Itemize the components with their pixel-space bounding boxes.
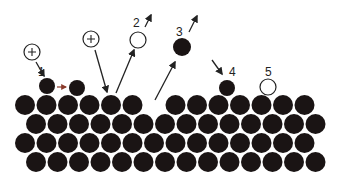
lattice-atom xyxy=(134,114,154,134)
sputtered-atom-3 xyxy=(173,38,191,56)
adatom-1-destination xyxy=(69,80,85,96)
lattice-atom xyxy=(15,95,35,115)
lattice-atom xyxy=(58,95,78,115)
lattice-atom xyxy=(230,133,250,153)
lattice-atom xyxy=(91,114,111,134)
lattice-atom xyxy=(177,114,197,134)
lattice-atom xyxy=(295,133,315,153)
lattice-atom xyxy=(263,114,283,134)
label-2: 2 xyxy=(133,16,140,30)
lattice-atom xyxy=(284,152,304,172)
lattice-atom xyxy=(26,152,46,172)
label-1: 1 xyxy=(38,65,45,79)
lattice-atom xyxy=(80,133,100,153)
lattice-atom xyxy=(306,152,326,172)
lattice-atom xyxy=(220,152,240,172)
lattice-atom xyxy=(91,152,111,172)
lattice-atom xyxy=(155,114,175,134)
lattice-atom xyxy=(177,152,197,172)
label-3: 3 xyxy=(176,25,183,39)
label-5: 5 xyxy=(265,65,272,79)
surface-ion-5 xyxy=(260,79,276,95)
lattice-atom xyxy=(26,114,46,134)
sputtered-ion-2 xyxy=(130,32,146,48)
lattice-atom xyxy=(134,152,154,172)
lattice-atom xyxy=(69,114,89,134)
adatom-1-origin xyxy=(39,78,55,94)
lattice-atom xyxy=(112,152,132,172)
trajectory-arrows xyxy=(36,15,222,100)
lattice-atom xyxy=(144,133,164,153)
lattice-atom xyxy=(252,95,272,115)
label-4: 4 xyxy=(229,65,236,79)
lattice-atom xyxy=(306,114,326,134)
lattice-atom xyxy=(166,95,186,115)
adatom-4 xyxy=(219,80,235,96)
lattice-atom xyxy=(295,95,315,115)
lattice-atom xyxy=(252,133,272,153)
lattice-atom xyxy=(80,95,100,115)
lattice-atom xyxy=(241,114,261,134)
lattice-atom xyxy=(166,133,186,153)
lattice-atom xyxy=(123,95,143,115)
lattice-atom xyxy=(48,152,68,172)
lattice-atom xyxy=(123,133,143,153)
lattice-atom xyxy=(284,114,304,134)
lattice-atom xyxy=(220,114,240,134)
incident-ion-2 xyxy=(83,31,99,47)
lattice-atom xyxy=(263,152,283,172)
lattice-atom xyxy=(273,95,293,115)
lattice-atom xyxy=(230,95,250,115)
lattice-atom xyxy=(209,133,229,153)
lattice-atom xyxy=(101,95,121,115)
lattice-atom xyxy=(209,95,229,115)
lattice-atom xyxy=(112,114,132,134)
lattice-atom xyxy=(48,114,68,134)
lattice-atom xyxy=(241,152,261,172)
sputter-2-exit-arrow xyxy=(145,15,151,27)
sputter-3-exit-arrow xyxy=(189,16,197,32)
lattice-atom xyxy=(69,152,89,172)
lattice-atom xyxy=(101,133,121,153)
lattice-atom xyxy=(187,133,207,153)
lattice-atom xyxy=(58,133,78,153)
lattice-atom xyxy=(187,95,207,115)
sputter-2-arrow xyxy=(116,50,134,93)
process-labels: 1 2 3 4 5 xyxy=(38,16,272,79)
incident-ion-1 xyxy=(24,44,40,60)
lattice-atom xyxy=(37,133,57,153)
lattice-atom xyxy=(273,133,293,153)
ion-2-incident-arrow xyxy=(95,50,107,92)
particles xyxy=(24,31,276,96)
lattice-atom xyxy=(198,114,218,134)
deposit-4-arrow xyxy=(212,60,222,74)
surface-interaction-diagram: 1 2 3 4 5 xyxy=(0,0,341,178)
lattice-atom xyxy=(37,95,57,115)
lattice-atom xyxy=(15,133,35,153)
lattice-atom xyxy=(198,152,218,172)
crystal-lattice xyxy=(15,95,326,172)
lattice-atom xyxy=(155,152,175,172)
sputter-3-arrow xyxy=(155,62,175,100)
